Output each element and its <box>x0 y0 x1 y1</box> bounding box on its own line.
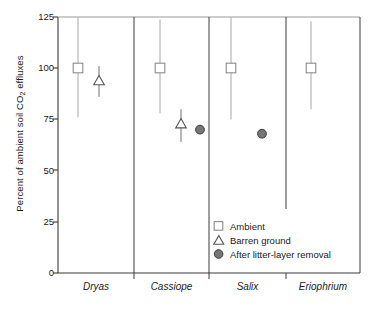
marker-litter-salix <box>258 129 267 138</box>
plot-canvas <box>0 0 370 309</box>
marker-litter-cassiope <box>196 125 205 134</box>
marker-ambient-cassiope <box>155 63 165 73</box>
marker-ambient-eriophrium <box>306 63 316 73</box>
open-square-icon <box>212 220 226 232</box>
open-triangle-icon <box>212 234 226 246</box>
legend-label-barren-ground: Barren ground <box>230 235 291 246</box>
legend-label-litter-removal: After litter-layer removal <box>230 249 331 260</box>
legend-item-litter-removal: After litter-layer removal <box>212 247 331 261</box>
filled-circle-icon <box>212 248 226 260</box>
x-category-label-cassiope: Cassiope <box>134 281 209 292</box>
chart-figure: Percent of ambient soil CO2 effluxes 125… <box>0 0 370 309</box>
marker-ambient-dryas <box>73 63 83 73</box>
legend-item-ambient: Ambient <box>212 219 331 233</box>
marker-barren-cassiope <box>176 119 187 128</box>
legend-item-barren-ground: Barren ground <box>212 233 331 247</box>
marker-barren-dryas <box>94 76 105 85</box>
x-category-label-salix: Salix <box>209 281 286 292</box>
x-category-label-eriophrium: Eriophrium <box>286 281 360 292</box>
x-category-label-dryas: Dryas <box>58 281 134 292</box>
legend-label-ambient: Ambient <box>230 221 265 232</box>
chart-legend: Ambient Barren ground After litter-layer… <box>212 219 331 261</box>
marker-ambient-salix <box>226 63 236 73</box>
